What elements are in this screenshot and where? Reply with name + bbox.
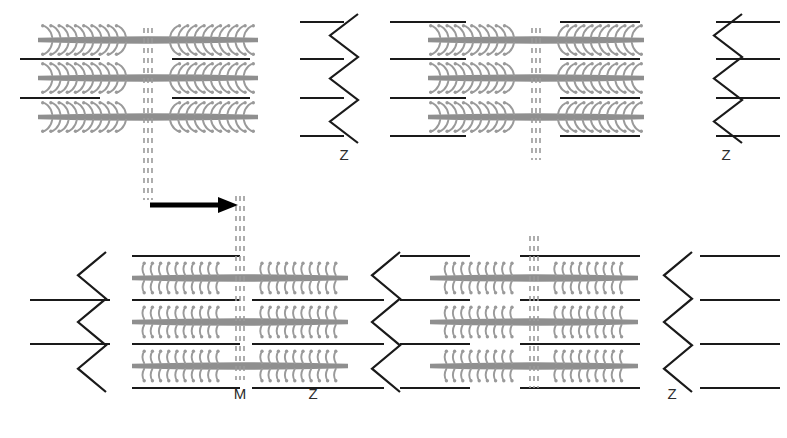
myosin-head-tip [486, 130, 489, 133]
myosin-head-tip [579, 350, 582, 353]
m-label-bottom: M [234, 385, 247, 402]
myosin-head-tip [579, 335, 582, 338]
myosin-head-tip [453, 306, 456, 309]
myosin-head-tip [243, 130, 246, 133]
myosin-head-tip [494, 262, 497, 265]
myosin-head-tip [486, 306, 489, 309]
myosin-head-tip [227, 91, 230, 94]
myosin-head-tip [604, 350, 607, 353]
myosin-head-tip [216, 262, 219, 265]
myosin-head-tip [595, 306, 598, 309]
myosin-head-tip [194, 91, 197, 94]
myosin-head-tip [453, 350, 456, 353]
myosin-head-tip [57, 62, 60, 65]
myosin-head-tip [235, 91, 238, 94]
myosin-head-tip [219, 101, 222, 104]
myosin-head-tip [184, 306, 187, 309]
myosin-head-tip [470, 91, 473, 94]
myosin-head-tip [49, 53, 52, 56]
myosin-head-tip [469, 291, 472, 294]
myosin-head-tip [202, 130, 205, 133]
myosin-head-tip [216, 350, 219, 353]
myosin-head-tip [604, 335, 607, 338]
myosin-head-tip [494, 350, 497, 353]
myosin-head-tip [151, 306, 154, 309]
myosin-head-tip [227, 62, 230, 65]
myosin-head-tip [612, 262, 615, 265]
myosin-head-tip [211, 130, 214, 133]
myosin-head-tip [200, 350, 203, 353]
myosin-head-tip [502, 291, 505, 294]
myosin-head-tip [301, 350, 304, 353]
myosin-head-tip [461, 350, 464, 353]
diagram-canvas: ZZMZZ [0, 0, 787, 438]
myosin-head-tip [566, 130, 569, 133]
myosin-head-tip [74, 62, 77, 65]
myosin-head-tip [563, 335, 566, 338]
myosin-head-tip [269, 262, 272, 265]
myosin-head-tip [49, 24, 52, 27]
myosin-head-tip [310, 306, 313, 309]
myosin-head-tip [445, 379, 448, 382]
myosin-head-tip [74, 53, 77, 56]
myosin-head-tip [260, 262, 263, 265]
myosin-head-tip [470, 53, 473, 56]
myosin-head-tip [167, 335, 170, 338]
myosin-head-tip [115, 130, 118, 133]
myosin-head-tip [269, 335, 272, 338]
myosin-head-tip [252, 62, 255, 65]
myosin-head-tip [192, 262, 195, 265]
myosin-head-tip [57, 130, 60, 133]
myosin-head-tip [293, 291, 296, 294]
myosin-head-tip [194, 24, 197, 27]
myosin-head-tip [437, 62, 440, 65]
myosin-head-tip [260, 350, 263, 353]
myosin-head-tip [486, 62, 489, 65]
myosin-head-tip [269, 379, 272, 382]
myosin-head-tip [175, 350, 178, 353]
myosin-head-tip [143, 262, 146, 265]
myosin-head-tip [200, 306, 203, 309]
myosin-head-tip [98, 24, 101, 27]
myosin-head-tip [49, 130, 52, 133]
myosin-head-tip [219, 62, 222, 65]
myosin-head-tip [243, 62, 246, 65]
myosin-head-tip [269, 306, 272, 309]
myosin-head-tip [587, 262, 590, 265]
myosin-head-tip [437, 130, 440, 133]
myosin-head-tip [186, 101, 189, 104]
myosin-head-tip [285, 291, 288, 294]
myosin-head-tip [293, 335, 296, 338]
myosin-head-tip [90, 91, 93, 94]
myosin-head-tip [587, 306, 590, 309]
myosin-head-tip [285, 379, 288, 382]
myosin-head-tip [260, 291, 263, 294]
myosin-head-tip [175, 335, 178, 338]
myosin-head-tip [604, 262, 607, 265]
z-label-bottom-2: Z [667, 385, 676, 402]
myosin-head-tip [590, 53, 593, 56]
myosin-head-tip [604, 379, 607, 382]
myosin-head-tip [66, 130, 69, 133]
myosin-head-tip [334, 262, 337, 265]
myosin-head-tip [478, 379, 481, 382]
myosin-head-tip [445, 335, 448, 338]
myosin-head-tip [192, 335, 195, 338]
myosin-head-tip [194, 130, 197, 133]
myosin-head-tip [326, 350, 329, 353]
myosin-head-tip [495, 62, 498, 65]
myosin-head-tip [219, 91, 222, 94]
myosin-head-tip [462, 53, 465, 56]
myosin-head-tip [235, 53, 238, 56]
myosin-head-tip [178, 101, 181, 104]
myosin-head-tip [510, 262, 513, 265]
myosin-head-tip [318, 262, 321, 265]
myosin-head-tip [486, 291, 489, 294]
myosin-head-tip [612, 379, 615, 382]
myosin-head-tip [623, 101, 626, 104]
myosin-head-tip [293, 350, 296, 353]
myosin-head-tip [478, 335, 481, 338]
myosin-head-tip [186, 130, 189, 133]
myosin-head-tip [554, 350, 557, 353]
myosin-head-tip [631, 130, 634, 133]
